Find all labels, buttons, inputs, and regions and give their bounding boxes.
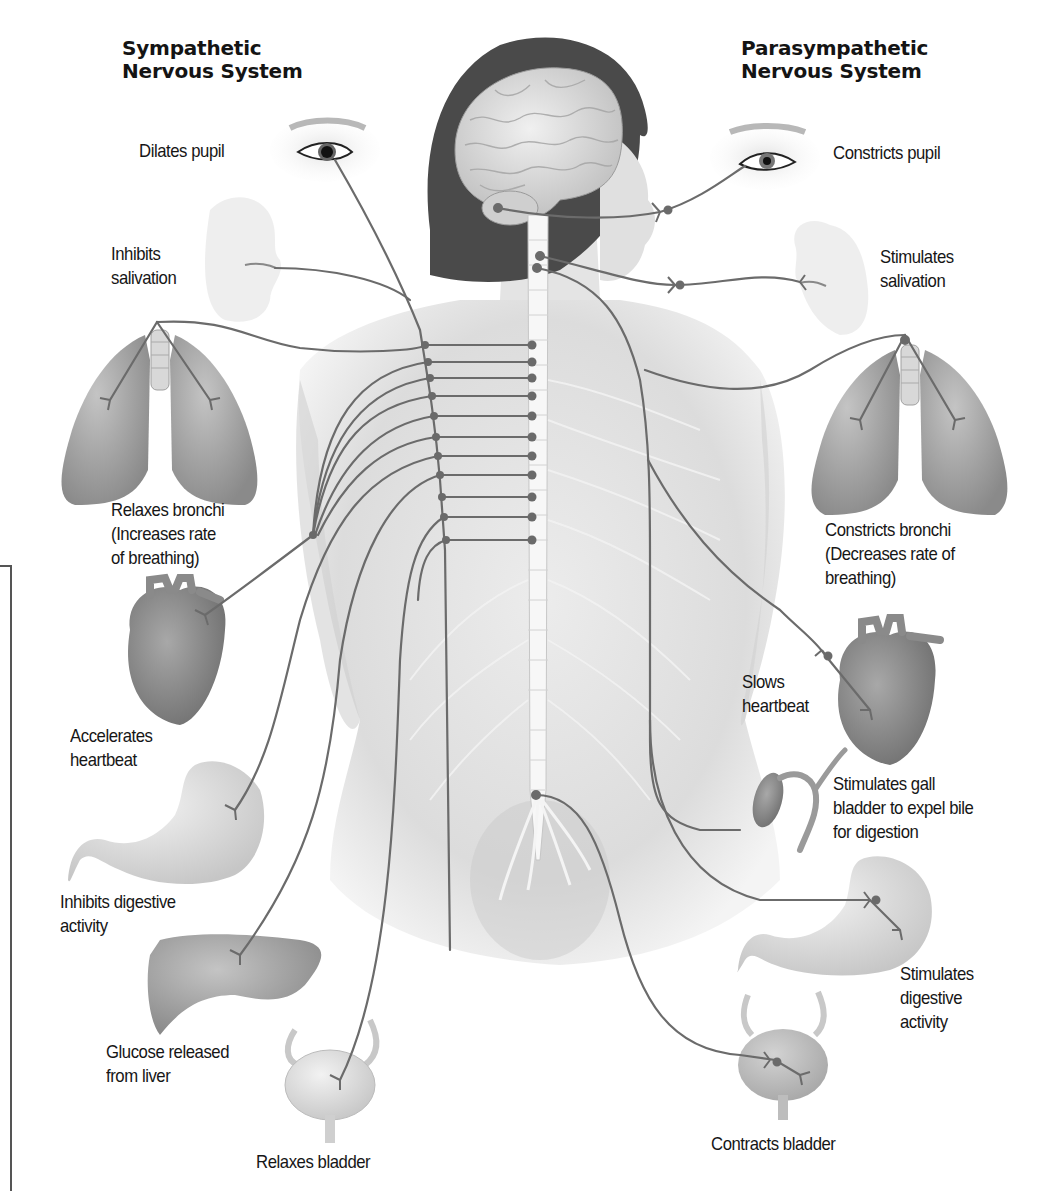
frame-vertical-line: [10, 565, 12, 1191]
sympathetic-heart: [128, 578, 226, 725]
parasympathetic-heading: Parasympathetic Nervous System: [741, 37, 928, 83]
sympathetic-heading: Sympathetic Nervous System: [122, 37, 303, 83]
parasympathetic-heading-line2: Nervous System: [741, 60, 928, 83]
sympathetic-liver: [148, 934, 322, 1035]
label-accelerates-heartbeat: Accelerates heartbeat: [70, 724, 153, 772]
label-glucose-released: Glucose released from liver: [106, 1040, 229, 1088]
frame-horizontal-tick: [0, 565, 11, 567]
sympathetic-lungs: [61, 330, 257, 505]
label-stimulates-digestive-activity: Stimulates digestive activity: [900, 962, 974, 1034]
parasympathetic-mouth: [794, 221, 868, 335]
sympathetic-stomach: [68, 761, 264, 884]
sympathetic-heading-line1: Sympathetic: [122, 37, 303, 60]
label-contracts-bladder: Contracts bladder: [711, 1132, 835, 1156]
label-constricts-pupil: Constricts pupil: [833, 141, 940, 165]
parasympathetic-heading-line1: Parasympathetic: [741, 37, 928, 60]
parasympathetic-heart: [838, 618, 940, 765]
label-inhibits-salivation: Inhibits salivation: [111, 242, 176, 290]
parasympathetic-lungs: [811, 345, 1007, 515]
label-stimulates-salivation: Stimulates salivation: [880, 245, 954, 293]
label-inhibits-digestive-activity: Inhibits digestive activity: [60, 890, 176, 938]
label-relaxes-bronchi: Relaxes bronchi (Increases rate of breat…: [111, 498, 224, 570]
label-stimulates-gall-bladder: Stimulates gall bladder to expel bile fo…: [833, 772, 973, 844]
parasympathetic-eye: [710, 126, 820, 190]
sympathetic-bladder: [285, 1020, 376, 1143]
sympathetic-mouth: [205, 197, 281, 322]
nervous-system-illustration: [0, 0, 1041, 1191]
label-slows-heartbeat: Slows heartbeat: [742, 670, 809, 718]
label-relaxes-bladder: Relaxes bladder: [256, 1150, 370, 1174]
label-dilates-pupil: Dilates pupil: [139, 139, 224, 163]
label-constricts-bronchi: Constricts bronchi (Decreases rate of br…: [825, 518, 955, 590]
sympathetic-heading-line2: Nervous System: [122, 60, 303, 83]
sympathetic-eye: [270, 118, 380, 182]
